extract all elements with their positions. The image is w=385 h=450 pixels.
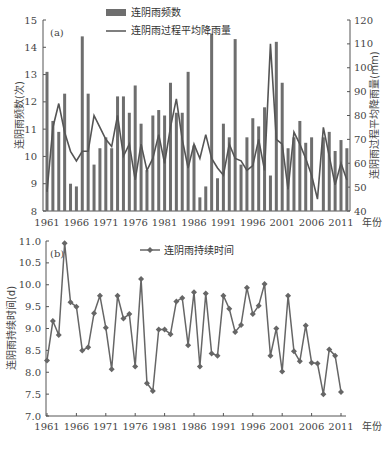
y-right-axis-label: 连阴雨过程平均降雨量(mm) xyxy=(368,51,380,178)
y-tick-label: 11 xyxy=(24,124,37,135)
bar xyxy=(134,85,137,211)
bar xyxy=(140,124,143,211)
data-point-marker xyxy=(97,293,103,299)
panel-label-a: (a) xyxy=(50,27,64,38)
y-tick-label: 10.5 xyxy=(19,257,41,268)
data-point-marker xyxy=(185,342,191,348)
bar xyxy=(145,170,148,211)
bar xyxy=(98,148,101,211)
bar xyxy=(240,165,243,211)
data-point-marker xyxy=(297,358,303,364)
legend-bar-label: 连阴雨频数 xyxy=(131,6,181,18)
bar xyxy=(169,83,172,211)
y-right-tick-label: 90 xyxy=(354,86,367,97)
y-tick-label: 15 xyxy=(24,15,37,26)
data-point-marker xyxy=(62,240,68,246)
bar xyxy=(340,140,343,211)
bar xyxy=(151,116,154,212)
data-point-marker xyxy=(103,325,109,331)
y-tick-label: 10 xyxy=(24,151,37,162)
bar xyxy=(128,113,131,211)
bar xyxy=(75,186,78,211)
panel-a: 8910111213141540506070809010011012019611… xyxy=(13,6,382,228)
bar xyxy=(328,132,331,211)
y-right-tick-label: 50 xyxy=(354,182,367,193)
data-point-marker xyxy=(291,348,297,354)
bar xyxy=(204,186,207,211)
y-tick-label: 9 xyxy=(31,178,37,189)
x-tick-label: 1986 xyxy=(181,217,206,228)
bar xyxy=(87,94,90,211)
x-tick-label: 2011 xyxy=(328,421,353,432)
x-tick-label: 2011 xyxy=(328,217,353,228)
data-point-marker xyxy=(279,368,285,374)
bar xyxy=(116,96,119,211)
data-point-marker xyxy=(109,366,115,372)
x-tick-label: 1986 xyxy=(181,421,206,432)
bar xyxy=(81,36,84,211)
data-point-marker xyxy=(320,391,326,397)
bar xyxy=(93,165,96,211)
y-right-tick-label: 60 xyxy=(354,158,367,169)
y-tick-label: 9.5 xyxy=(25,301,41,312)
bar xyxy=(175,113,178,211)
x-tick-label: 1991 xyxy=(211,421,236,432)
data-point-marker xyxy=(138,276,144,282)
y-right-tick-label: 40 xyxy=(354,206,367,217)
data-point-marker xyxy=(267,353,273,359)
x-tick-label: 1966 xyxy=(64,421,89,432)
x-tick-label: 1961 xyxy=(34,217,59,228)
x-tick-label: 1991 xyxy=(211,217,236,228)
x-tick-label: 1971 xyxy=(93,217,118,228)
data-point-marker xyxy=(338,389,344,395)
y-tick-label: 9.0 xyxy=(25,323,41,334)
legend-label: 连阴雨持续时间 xyxy=(164,244,234,256)
data-point-marker xyxy=(226,306,232,312)
data-point-marker xyxy=(262,281,268,287)
y-tick-label: 8.0 xyxy=(25,367,41,378)
data-point-marker xyxy=(156,326,162,332)
y-right-tick-label: 80 xyxy=(354,110,367,121)
x-tick-label: 1966 xyxy=(64,217,89,228)
data-point-marker xyxy=(285,293,291,299)
bar xyxy=(198,197,201,211)
data-point-marker xyxy=(309,360,315,366)
x-tick-label: 1996 xyxy=(240,421,265,432)
x-tick-label: 1961 xyxy=(34,421,59,432)
data-point-marker xyxy=(191,289,197,295)
data-point-marker xyxy=(203,291,209,297)
x-tick-label: 1981 xyxy=(152,217,177,228)
y-right-tick-label: 120 xyxy=(354,15,373,26)
bar xyxy=(257,126,260,211)
x-tick-label: 2006 xyxy=(299,217,324,228)
legend-line-label: 连阴雨过程平均降雨量 xyxy=(131,24,231,36)
x-tick-label: 2001 xyxy=(269,217,294,228)
y-tick-label: 8 xyxy=(31,206,37,217)
y-right-tick-label: 110 xyxy=(354,38,373,49)
rainfall-line xyxy=(47,44,347,199)
data-point-marker xyxy=(91,310,97,316)
bar xyxy=(245,137,248,211)
bar xyxy=(216,178,219,211)
x-axis-label: 年份 xyxy=(362,216,382,228)
panel-b: 7.07.58.08.59.09.510.010.511.01961196619… xyxy=(5,236,382,433)
bar xyxy=(57,132,60,211)
bar xyxy=(210,34,213,211)
y-right-tick-label: 70 xyxy=(354,134,367,145)
y-tick-label: 8.5 xyxy=(25,345,41,356)
bar xyxy=(298,121,301,211)
x-axis-label: 年份 xyxy=(362,420,382,432)
data-point-marker xyxy=(215,353,221,359)
data-point-marker xyxy=(314,361,320,367)
x-tick-label: 1981 xyxy=(152,421,177,432)
data-point-marker xyxy=(115,293,121,299)
bar xyxy=(69,184,72,211)
data-point-marker xyxy=(50,318,56,324)
panel-label-b: (b) xyxy=(50,248,64,259)
data-point-marker xyxy=(79,347,85,353)
x-tick-label: 2006 xyxy=(299,421,324,432)
data-point-marker xyxy=(56,332,62,338)
bar xyxy=(104,137,107,211)
bar xyxy=(157,110,160,211)
chart-figure: 8910111213141540506070809010011012019611… xyxy=(0,0,385,450)
